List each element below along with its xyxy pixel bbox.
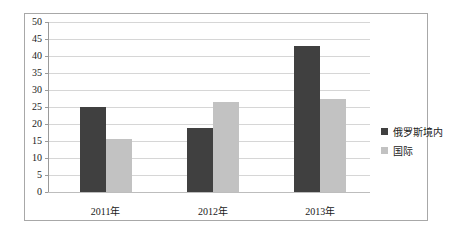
y-tick-mark: [45, 141, 48, 142]
y-tick-mark: [45, 90, 48, 91]
y-axis-tick-label: 25: [32, 102, 42, 112]
bar: [187, 128, 213, 192]
y-axis-tick-label: 0: [37, 187, 42, 197]
x-axis-tick-label: 2013年: [294, 203, 346, 218]
chart-legend: 俄罗斯境内国际: [381, 122, 451, 160]
bar: [294, 46, 320, 192]
y-axis-spine: [48, 22, 49, 192]
bar: [320, 99, 346, 192]
chart-frame: 05101520253035404550 2011年2012年2013年 俄罗斯…: [24, 13, 428, 221]
bar-group: 2013年: [294, 22, 346, 192]
y-axis-tick-label: 10: [32, 153, 42, 163]
legend-label: 国际: [393, 143, 413, 158]
plot-area: 05101520253035404550 2011年2012年2013年: [48, 22, 370, 192]
bar-group: 2012年: [187, 22, 239, 192]
legend-swatch-icon: [381, 147, 388, 154]
legend-label: 俄罗斯境内: [393, 124, 443, 139]
y-tick-mark: [45, 175, 48, 176]
y-axis-tick-label: 5: [37, 170, 42, 180]
y-tick-mark: [45, 192, 48, 193]
bar-group: 2011年: [80, 22, 132, 192]
legend-item[interactable]: 俄罗斯境内: [381, 122, 451, 141]
y-axis-tick-label: 35: [32, 68, 42, 78]
y-axis-tick-label: 15: [32, 136, 42, 146]
bar: [106, 139, 132, 192]
y-axis-tick-label: 45: [32, 34, 42, 44]
bar: [213, 102, 239, 192]
legend-swatch-icon: [381, 128, 388, 135]
y-tick-mark: [45, 107, 48, 108]
y-tick-mark: [45, 124, 48, 125]
x-axis-tick-label: 2012年: [187, 203, 239, 218]
gridline: [48, 192, 370, 193]
bar: [80, 107, 106, 192]
y-axis-tick-label: 50: [32, 17, 42, 27]
y-tick-mark: [45, 158, 48, 159]
y-tick-mark: [45, 73, 48, 74]
x-axis-tick-label: 2011年: [80, 203, 132, 218]
legend-item[interactable]: 国际: [381, 141, 451, 160]
y-tick-mark: [45, 22, 48, 23]
y-axis-tick-label: 40: [32, 51, 42, 61]
y-tick-mark: [45, 56, 48, 57]
y-tick-mark: [45, 39, 48, 40]
y-axis-tick-label: 20: [32, 119, 42, 129]
y-axis-tick-label: 30: [32, 85, 42, 95]
